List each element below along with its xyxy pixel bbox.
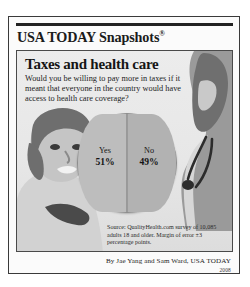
masthead-brand-text: USA TODAY Snapshots (17, 29, 159, 45)
masthead-brand: USA TODAY Snapshots® (17, 29, 165, 46)
byline-credit: By Jae Yang and Sam Ward, USA TODAY (106, 257, 231, 265)
snapshot-outer-frame: USA TODAY Snapshots® (8, 16, 240, 274)
pie-label-no-name: No (130, 147, 168, 156)
registered-trademark-icon: ® (159, 29, 164, 38)
pie-chart: Yes 51% No 49% (77, 113, 177, 213)
masthead: USA TODAY Snapshots® (16, 23, 233, 50)
pie-label-yes-name: Yes (86, 147, 124, 156)
snapshot-page: USA TODAY Snapshots® (0, 0, 250, 287)
survey-question: Would you be willing to pay more in taxe… (25, 74, 185, 105)
pie-divider (126, 114, 127, 212)
masthead-rule (16, 23, 233, 26)
pie-label-yes-value: 51% (86, 157, 124, 167)
pie-label-yes: Yes 51% (86, 147, 124, 167)
pie-label-no: No 49% (130, 147, 168, 167)
source-note: Source: QualityHealth.com survey of 10,0… (107, 224, 227, 246)
byline-year: 2008 (106, 267, 231, 273)
page-title: Taxes and health care (25, 56, 159, 73)
graphic-panel: Taxes and health care Would you be willi… (16, 50, 233, 252)
pie-label-no-value: 49% (130, 157, 168, 167)
byline: By Jae Yang and Sam Ward, USA TODAY 2008 (106, 257, 231, 273)
